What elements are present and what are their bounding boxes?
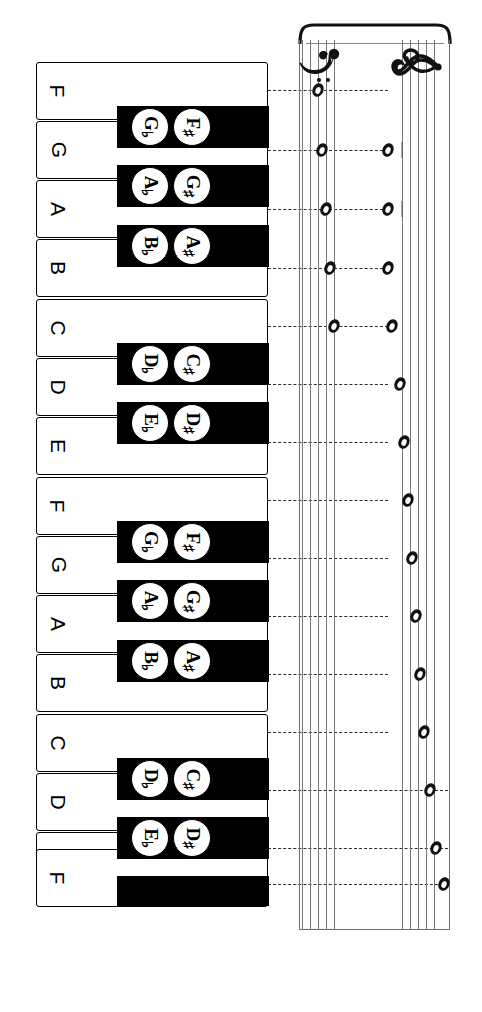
note-head-treble-c [419,725,430,739]
white-key-label: C [48,735,69,750]
black-key-bflat-asharp[interactable]: B♭A♯ [117,640,269,682]
enharmonic-sharp-label: G♯ [181,175,203,197]
enharmonic-flat-badge[interactable]: A♭ [131,582,169,620]
note-head-bass-f [313,83,324,97]
note-head-treble-b [415,667,426,681]
enharmonic-sharp-label: F♯ [181,532,203,551]
note-head-treble-f [403,493,414,507]
enharmonic-flat-badge[interactable]: B♭ [131,642,169,680]
treble-staff-line-3 [418,40,419,930]
enharmonic-flat-label: G♭ [139,531,161,553]
enharmonic-flat-label: E♭ [139,828,161,848]
treble-staff-line-1 [402,40,403,930]
white-key-label: G [49,142,70,158]
bass-staff-line-3 [318,40,319,930]
enharmonic-sharp-label: F♯ [181,117,203,136]
black-key-gflat-fsharp[interactable]: G♭F♯ [117,521,269,563]
white-key-label: A [48,202,69,216]
white-key-label: B [48,261,69,275]
note-head-treble-a [383,202,394,216]
enharmonic-sharp-badge[interactable]: F♯ [173,523,211,561]
ledger-line [402,142,403,158]
ledger-line [402,201,403,217]
enharmonic-sharp-badge[interactable]: A♯ [173,642,211,680]
note-head-treble-b [383,261,394,275]
white-key-label: F [47,500,68,513]
enharmonic-sharp-badge[interactable]: C♯ [173,345,211,383]
enharmonic-sharp-badge[interactable]: D♯ [173,404,211,442]
enharmonic-flat-badge[interactable]: D♭ [131,760,169,798]
white-key-label: E [48,439,69,453]
black-key-eflat-dsharp[interactable]: E♭D♯ [117,402,269,444]
white-key-label: C [48,320,69,335]
treble-staff-line-2 [410,40,411,930]
black-key-eflat-dsharp[interactable]: E♭D♯ [117,817,269,859]
enharmonic-sharp-label: G♯ [181,590,203,612]
enharmonic-flat-badge[interactable]: D♭ [131,345,169,383]
note-head-treble-a [411,609,422,623]
bass-staff-line-5 [334,40,335,930]
black-key-gflat-fsharp[interactable]: G♭F♯ [117,106,269,148]
treble-clef-icon [384,42,450,92]
grand-staff [296,22,454,930]
enharmonic-flat-badge[interactable]: G♭ [131,108,169,146]
white-key-label: F [47,872,68,885]
note-head-treble-e [431,841,442,855]
white-key-label: F [47,85,68,98]
enharmonic-flat-badge[interactable]: A♭ [131,167,169,205]
enharmonic-sharp-label: D♯ [181,827,203,848]
black-key-bflat-asharp[interactable]: B♭A♯ [117,225,269,267]
enharmonic-sharp-label: C♯ [181,768,203,789]
black-key-dflat-csharp[interactable]: D♭C♯ [117,758,269,800]
enharmonic-sharp-badge[interactable]: G♯ [173,582,211,620]
white-key-label: A [48,617,69,631]
note-head-treble-c [387,319,398,333]
enharmonic-sharp-badge[interactable]: D♯ [173,819,211,857]
enharmonic-flat-label: D♭ [139,769,161,790]
enharmonic-sharp-label: C♯ [181,353,203,374]
note-head-bass-b [325,261,336,275]
enharmonic-sharp-label: A♯ [181,235,203,256]
bass-staff-line-1 [302,40,303,930]
enharmonic-flat-label: G♭ [139,116,161,138]
black-key-aflat-gsharp[interactable]: A♭G♯ [117,165,269,207]
bass-staff-line-4 [326,40,327,930]
note-head-treble-f [439,877,450,891]
enharmonic-flat-badge[interactable]: E♭ [131,819,169,857]
enharmonic-sharp-badge[interactable]: A♯ [173,227,211,265]
white-key-label: D [48,379,69,394]
enharmonic-sharp-badge[interactable]: G♯ [173,167,211,205]
black-key-partial[interactable] [117,876,269,906]
piano-keyboard: FGABCDEFGABCDEFG♭F♯A♭G♯B♭A♯D♭C♯E♭D♯G♭F♯A… [36,62,268,907]
enharmonic-flat-label: A♭ [139,176,161,197]
note-head-treble-d [395,377,406,391]
white-key-label: G [49,557,70,573]
enharmonic-flat-badge[interactable]: B♭ [131,227,169,265]
enharmonic-sharp-label: A♯ [181,650,203,671]
black-key-aflat-gsharp[interactable]: A♭G♯ [117,580,269,622]
note-head-bass-a [321,202,332,216]
white-key-label: B [48,676,69,690]
note-head-bass-g [317,143,328,157]
note-head-treble-e [399,435,410,449]
note-head-treble-d [425,783,436,797]
enharmonic-sharp-badge[interactable]: C♯ [173,760,211,798]
enharmonic-sharp-label: D♯ [181,412,203,433]
enharmonic-flat-badge[interactable]: E♭ [131,404,169,442]
enharmonic-sharp-badge[interactable]: F♯ [173,108,211,146]
enharmonic-flat-label: D♭ [139,354,161,375]
white-key-label: D [48,794,69,809]
enharmonic-flat-badge[interactable]: G♭ [131,523,169,561]
enharmonic-flat-label: E♭ [139,413,161,433]
enharmonic-flat-label: B♭ [139,651,161,671]
enharmonic-flat-label: A♭ [139,591,161,612]
note-head-treble-g [383,143,394,157]
note-head-bass-c [329,319,340,333]
black-key-dflat-csharp[interactable]: D♭C♯ [117,343,269,385]
bass-staff-line-2 [310,40,311,930]
note-head-treble-g [407,551,418,565]
enharmonic-flat-label: B♭ [139,236,161,256]
